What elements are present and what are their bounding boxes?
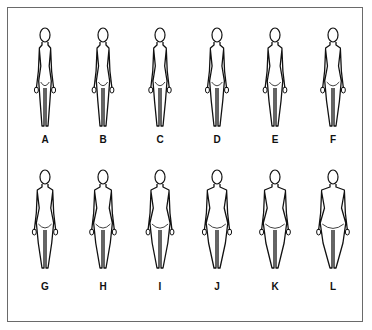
silhouette-label-k: K <box>265 281 285 292</box>
silhouette-label-h: H <box>93 281 113 292</box>
silhouette-k <box>247 168 303 272</box>
silhouette-d <box>189 26 245 130</box>
silhouette-l <box>305 168 361 272</box>
silhouette-f <box>305 26 361 130</box>
silhouette-label-g: G <box>35 281 55 292</box>
silhouette-label-d: D <box>207 134 227 145</box>
silhouette-label-a: A <box>35 134 55 145</box>
silhouette-label-c: C <box>150 134 170 145</box>
silhouette-label-f: F <box>323 134 343 145</box>
silhouette-j <box>189 168 245 272</box>
silhouette-g <box>17 168 73 272</box>
silhouette-label-l: L <box>323 281 343 292</box>
silhouette-e <box>247 26 303 130</box>
silhouette-label-j: J <box>207 281 227 292</box>
silhouette-b <box>75 26 131 130</box>
silhouette-label-i: I <box>150 281 170 292</box>
silhouette-i <box>132 168 188 272</box>
silhouette-label-b: B <box>93 134 113 145</box>
silhouette-h <box>75 168 131 272</box>
silhouette-a <box>17 26 73 130</box>
silhouette-label-e: E <box>265 134 285 145</box>
silhouette-c <box>132 26 188 130</box>
